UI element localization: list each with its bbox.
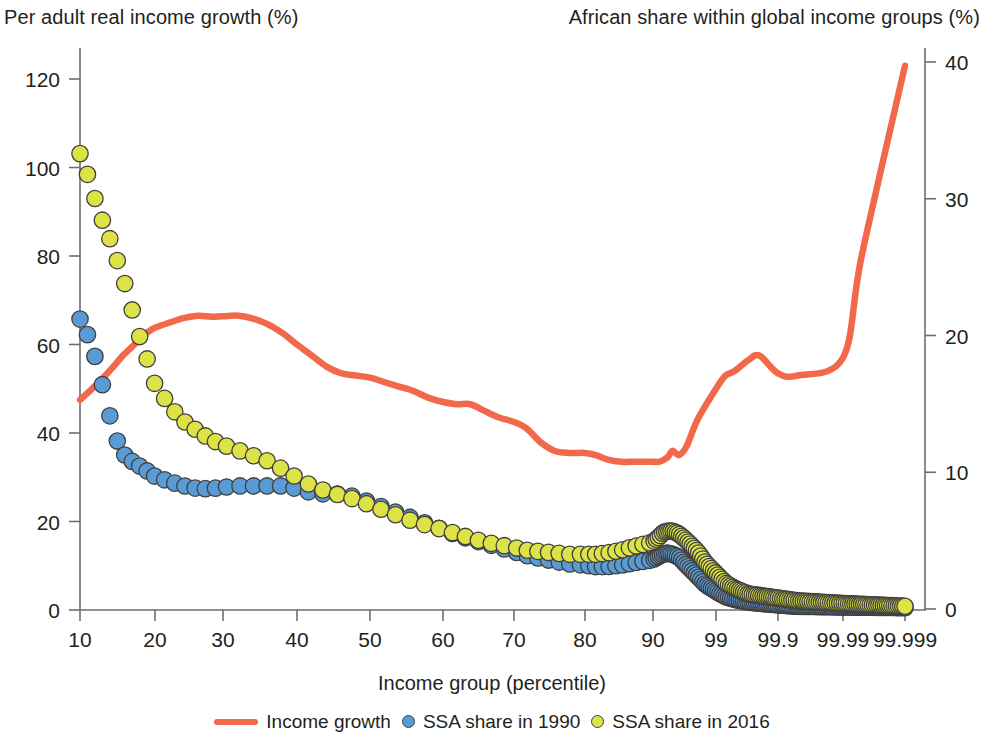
ssa-1990-points: [72, 311, 913, 616]
svg-text:60: 60: [431, 628, 454, 651]
svg-text:40: 40: [285, 628, 308, 651]
legend-label-ssa-1990: SSA share in 1990: [423, 712, 580, 731]
svg-text:0: 0: [48, 599, 60, 622]
svg-text:99.999: 99.999: [873, 628, 937, 651]
svg-text:20: 20: [143, 628, 166, 651]
svg-text:100: 100: [25, 157, 60, 180]
legend-item-ssa-1990: SSA share in 1990: [402, 712, 580, 731]
plot-area: 0204060801001200102030401020304050607080…: [0, 0, 984, 700]
svg-text:99.99: 99.99: [817, 628, 870, 651]
legend-item-ssa-2016: SSA share in 2016: [591, 712, 769, 731]
tick-labels: 0204060801001200102030401020304050607080…: [25, 51, 968, 651]
legend-line-swatch: [214, 719, 258, 725]
axes: [80, 48, 925, 610]
svg-text:20: 20: [945, 325, 968, 348]
legend-item-income-growth: Income growth: [214, 712, 391, 731]
svg-text:80: 80: [37, 245, 60, 268]
legend-dot-swatch-2016: [591, 715, 604, 728]
income-growth-line: [80, 66, 905, 462]
chart-figure: Per adult real income growth (%) African…: [0, 0, 984, 747]
svg-text:120: 120: [25, 68, 60, 91]
svg-text:99: 99: [704, 628, 727, 651]
svg-text:10: 10: [945, 461, 968, 484]
svg-text:40: 40: [945, 51, 968, 74]
legend-label-ssa-2016: SSA share in 2016: [612, 712, 769, 731]
svg-text:40: 40: [37, 422, 60, 445]
svg-text:80: 80: [573, 628, 596, 651]
chart-legend: Income growth SSA share in 1990 SSA shar…: [0, 712, 984, 731]
svg-text:0: 0: [945, 598, 957, 621]
svg-text:60: 60: [37, 334, 60, 357]
svg-text:20: 20: [37, 511, 60, 534]
legend-dot-swatch-1990: [402, 715, 415, 728]
svg-text:30: 30: [211, 628, 234, 651]
svg-text:70: 70: [502, 628, 525, 651]
svg-text:30: 30: [945, 188, 968, 211]
svg-text:90: 90: [641, 628, 664, 651]
x-axis-title: Income group (percentile): [0, 672, 984, 695]
legend-label-income-growth: Income growth: [266, 712, 391, 731]
svg-text:10: 10: [68, 628, 91, 651]
svg-text:50: 50: [358, 628, 381, 651]
svg-text:99.9: 99.9: [758, 628, 799, 651]
